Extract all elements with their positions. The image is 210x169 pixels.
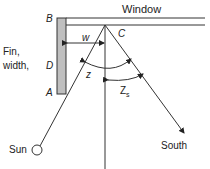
window-label: Window: [122, 4, 161, 14]
z-angle-arc: [85, 59, 131, 68]
fin-label-line1: Fin,: [3, 47, 20, 57]
point-c-label: C: [118, 29, 125, 39]
fin: [57, 18, 66, 94]
south-arrow: [105, 25, 184, 133]
fin-shading-diagram: Window B C w Fin, width, D z Zs A Sun So…: [0, 0, 210, 169]
fin-label-line2: width,: [3, 61, 29, 71]
point-a-label: A: [46, 88, 53, 98]
w-label: w: [82, 33, 89, 43]
point-d-label: D: [46, 61, 53, 71]
south-label: South: [161, 141, 187, 151]
zs-label: Zs: [120, 86, 130, 100]
zs-angle-arc: [108, 74, 143, 80]
sun-label: Sun: [9, 145, 27, 155]
point-b-label: B: [46, 14, 53, 24]
z-label: z: [86, 70, 91, 80]
sun-icon: [32, 145, 42, 155]
